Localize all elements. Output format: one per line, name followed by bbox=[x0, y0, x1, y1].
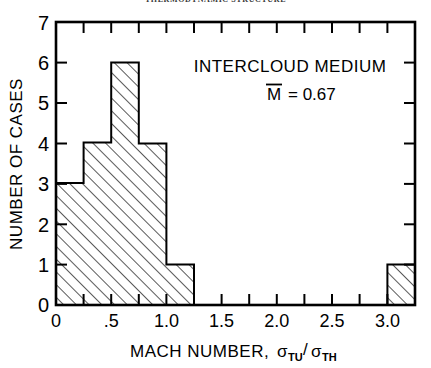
y-tick-label-6: 6 bbox=[38, 52, 49, 74]
x-tick-label-4: 2.0 bbox=[264, 311, 289, 331]
x-tick-label-1: .5 bbox=[104, 311, 119, 331]
x-axis-title-sub-tu: TU bbox=[288, 351, 303, 363]
x-tick-label-2: 1.0 bbox=[154, 311, 179, 331]
y-tick-label-4: 4 bbox=[38, 133, 49, 155]
x-axis-tick-labels: 0 .5 1.0 1.5 2.0 2.5 3.0 bbox=[51, 311, 400, 331]
annotation-mean-rest: = 0.67 bbox=[288, 85, 336, 104]
y-tick-label-2: 2 bbox=[38, 214, 49, 236]
x-axis-title-slash: / bbox=[303, 340, 308, 359]
y-axis-title: NUMBER OF CASES bbox=[7, 78, 26, 250]
y-tick-label-3: 3 bbox=[38, 173, 49, 195]
x-axis-title-sigma-th: σ bbox=[311, 342, 322, 361]
x-axis-title: MACH NUMBER, σ TU / σ TH bbox=[130, 340, 337, 363]
y-tick-label-5: 5 bbox=[38, 92, 49, 114]
histogram-figure: 0 1 2 3 4 5 6 7 0 .5 1.0 1.5 2.0 2.5 3.0… bbox=[0, 0, 431, 368]
x-axis-title-sub-th: TH bbox=[322, 351, 337, 363]
x-tick-label-0: 0 bbox=[51, 311, 61, 331]
x-tick-label-5: 2.5 bbox=[319, 311, 344, 331]
y-axis-tick-labels: 0 1 2 3 4 5 6 7 bbox=[38, 12, 49, 317]
histogram-outlier-bar bbox=[387, 265, 415, 305]
annotation-line-1: INTERCLOUD MEDIUM bbox=[194, 57, 387, 76]
annotation-mean-value: M = 0.67 bbox=[266, 85, 336, 105]
annotation-mean-symbol: M bbox=[267, 85, 281, 104]
x-axis-title-main: MACH NUMBER, bbox=[130, 342, 269, 361]
figure-page: THERMODYNAMIC STRUCTURE bbox=[0, 0, 431, 368]
y-tick-label-1: 1 bbox=[38, 254, 49, 276]
y-tick-label-0: 0 bbox=[38, 294, 49, 316]
x-tick-label-3: 1.5 bbox=[209, 311, 234, 331]
y-tick-label-7: 7 bbox=[38, 12, 49, 34]
x-tick-label-6: 3.0 bbox=[375, 311, 400, 331]
x-axis-title-sigma-tu: σ bbox=[277, 342, 288, 361]
